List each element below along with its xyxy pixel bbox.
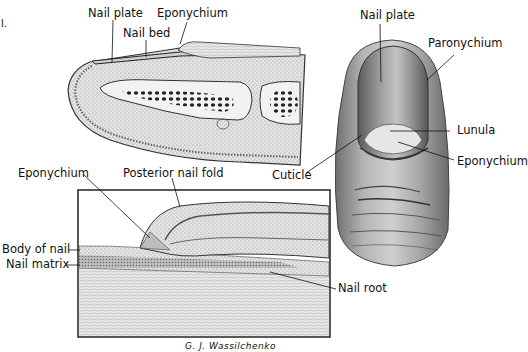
illustrator-signature: G. J. Wassilchenko (185, 341, 276, 351)
label-eponychium-sagittal: Eponychium (157, 8, 228, 20)
sagittal-section-illustration (68, 42, 305, 165)
leader-nail-plate (112, 20, 113, 62)
label-eponychium-detail: Eponychium (18, 168, 89, 180)
label-eponychium-dorsal: Eponychium (457, 156, 528, 168)
label-nail-bed: Nail bed (123, 28, 170, 40)
label-body-of-nail: Body of nail (2, 244, 70, 256)
figure-corner-mark: l. (1, 19, 7, 29)
label-paronychium: Paronychium (428, 38, 502, 50)
label-lunula: Lunula (457, 125, 495, 137)
detail-section-illustration (78, 190, 330, 337)
label-posterior-nail-fold: Posterior nail fold (123, 168, 223, 180)
leader-eponychium-top (180, 22, 187, 44)
label-cuticle: Cuticle (272, 170, 312, 182)
label-nail-plate-sagittal: Nail plate (88, 8, 143, 20)
label-nail-root: Nail root (338, 283, 387, 295)
label-nail-plate-dorsal: Nail plate (360, 10, 415, 22)
label-nail-matrix: Nail matrix (6, 259, 69, 271)
